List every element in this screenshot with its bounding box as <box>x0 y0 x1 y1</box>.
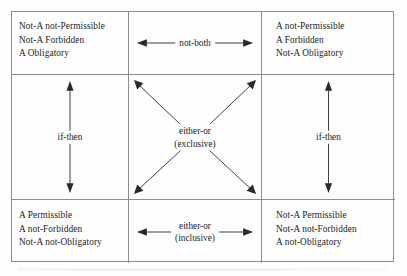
cell-middle-center: either-or (exclusive) <box>129 75 262 200</box>
proposition-line: Not-A Obligatory <box>276 47 345 61</box>
proposition-line: Not-A not-Obligatory <box>19 236 102 250</box>
proposition-line: Not-A Forbidden <box>19 34 105 48</box>
relation-label-line: either-or <box>174 125 215 138</box>
proposition-line: A not-Obligatory <box>276 236 357 250</box>
relation-label-middle-left: if-then <box>54 131 87 144</box>
proposition-list-bottom-left: A Permissible A not-Forbidden Not-A not-… <box>19 209 102 250</box>
cell-bottom-center: either-or (inclusive) <box>129 200 262 263</box>
cell-top-right: A not-Permissible A Forbidden Not-A Obli… <box>262 12 395 75</box>
relation-label-line: (exclusive) <box>174 137 215 150</box>
scan-artifact <box>18 268 388 271</box>
cell-bottom-right: Not-A Permissible Not-A not-Forbidden A … <box>262 200 395 263</box>
proposition-line: A Permissible <box>19 209 102 223</box>
relation-label-top-center: not-both <box>175 37 215 50</box>
cell-middle-left: if-then <box>12 75 129 200</box>
proposition-line: Not-A not-Permissible <box>19 20 105 34</box>
relation-label-bottom-center: either-or (inclusive) <box>171 219 219 244</box>
proposition-line: A not-Forbidden <box>19 223 102 237</box>
relation-label-line: if-then <box>316 131 341 144</box>
relation-label-middle-right: if-then <box>312 131 345 144</box>
proposition-line: Not-A not-Forbidden <box>276 223 357 237</box>
proposition-line: Not-A Permissible <box>276 209 357 223</box>
proposition-line: A Forbidden <box>276 34 345 48</box>
relation-label-line: (inclusive) <box>175 232 215 245</box>
proposition-list-bottom-right: Not-A Permissible Not-A not-Forbidden A … <box>276 209 357 250</box>
relation-label-line: either-or <box>175 219 215 232</box>
relation-label-middle-center: either-or (exclusive) <box>170 125 219 150</box>
cell-top-center: not-both <box>129 12 262 75</box>
proposition-line: A Obligatory <box>19 47 105 61</box>
proposition-list-top-right: A not-Permissible A Forbidden Not-A Obli… <box>276 20 345 61</box>
proposition-line: A not-Permissible <box>276 20 345 34</box>
diagram-page: Not-A not-Permissible Not-A Forbidden A … <box>0 0 407 276</box>
logic-grid-table: Not-A not-Permissible Not-A Forbidden A … <box>11 11 394 262</box>
relation-label-line: if-then <box>58 131 83 144</box>
relation-label-line: not-both <box>179 37 211 50</box>
proposition-list-top-left: Not-A not-Permissible Not-A Forbidden A … <box>19 20 105 61</box>
cell-bottom-left: A Permissible A not-Forbidden Not-A not-… <box>12 200 129 263</box>
cell-top-left: Not-A not-Permissible Not-A Forbidden A … <box>12 12 129 75</box>
cell-middle-right: if-then <box>262 75 395 200</box>
